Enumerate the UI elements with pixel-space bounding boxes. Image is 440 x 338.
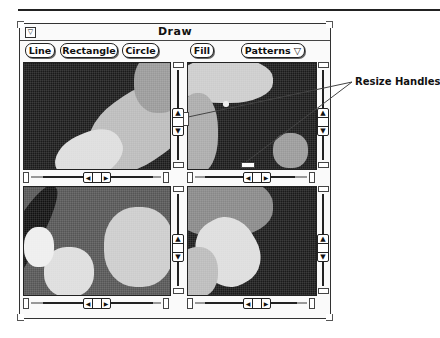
- scroll-down-arrow-icon[interactable]: ▼: [318, 252, 328, 261]
- draw-window: ▽ Draw Line Rectangle Circle Fill Patter…: [19, 23, 331, 319]
- scroll-down-arrow-icon[interactable]: ▼: [173, 126, 183, 135]
- scroll-left-arrow-icon[interactable]: ◀: [244, 173, 253, 182]
- scroll-right-anchor[interactable]: [163, 172, 169, 183]
- scroll-left-anchor[interactable]: [187, 172, 193, 183]
- line-button[interactable]: Line: [25, 43, 55, 58]
- scroll-left-arrow-icon[interactable]: ◀: [84, 173, 93, 182]
- horizontal-elevator[interactable]: ◀ ▶: [83, 298, 111, 309]
- scroll-bottom-anchor[interactable]: [173, 288, 184, 294]
- scroll-right-anchor[interactable]: [309, 172, 315, 183]
- title-bar[interactable]: ▽ Draw: [20, 24, 330, 41]
- scroll-up-arrow-icon[interactable]: ▲: [318, 235, 328, 244]
- scroll-top-anchor[interactable]: [318, 186, 329, 192]
- vertical-elevator[interactable]: ▲ ▼: [317, 108, 329, 136]
- patterns-menu-button[interactable]: Patterns ▽: [241, 43, 305, 58]
- pane-top-left-hscrollbar[interactable]: ◀ ▶: [23, 172, 169, 182]
- resize-handle-horizontal[interactable]: [241, 162, 255, 168]
- scroll-right-arrow-icon[interactable]: ▶: [101, 173, 110, 182]
- pane-top-right-canvas[interactable]: [187, 62, 317, 170]
- scroll-down-arrow-icon[interactable]: ▼: [173, 252, 183, 261]
- resize-handle-vertical[interactable]: [183, 112, 189, 126]
- window-title: Draw: [20, 25, 330, 38]
- pane-bottom-right-hscrollbar[interactable]: ◀ ▶: [187, 298, 315, 308]
- dither-texture: [24, 187, 170, 295]
- scroll-right-arrow-icon[interactable]: ▶: [101, 299, 110, 308]
- vertical-elevator[interactable]: ▲ ▼: [317, 234, 329, 262]
- scroll-up-arrow-icon[interactable]: ▲: [173, 235, 183, 244]
- pane-top-left-vscrollbar[interactable]: ▲ ▼: [173, 62, 183, 168]
- scroll-right-arrow-icon[interactable]: ▶: [261, 299, 270, 308]
- pane-bottom-left-vscrollbar[interactable]: ▲ ▼: [173, 186, 183, 294]
- horizontal-elevator[interactable]: ◀ ▶: [243, 298, 271, 309]
- dither-texture: [24, 63, 170, 169]
- vertical-elevator[interactable]: ▲ ▼: [172, 234, 184, 262]
- pane-bottom-right-canvas[interactable]: [187, 186, 317, 296]
- scroll-right-anchor[interactable]: [163, 298, 169, 309]
- pane-top-right-hscrollbar[interactable]: ◀ ▶: [187, 172, 315, 182]
- scroll-bottom-anchor[interactable]: [318, 288, 329, 294]
- window-resize-corner-br[interactable]: [326, 314, 333, 321]
- scroll-top-anchor[interactable]: [173, 62, 184, 68]
- circle-button[interactable]: Circle: [122, 43, 159, 58]
- pane-bottom-left-hscrollbar[interactable]: ◀ ▶: [23, 298, 169, 308]
- scroll-right-anchor[interactable]: [309, 298, 315, 309]
- scroll-bottom-anchor[interactable]: [318, 162, 329, 168]
- pane-bottom-left-canvas[interactable]: [23, 186, 171, 296]
- scroll-down-arrow-icon[interactable]: ▼: [318, 126, 328, 135]
- pane-top-left-canvas[interactable]: [23, 62, 171, 170]
- window-resize-corner-bl[interactable]: [17, 314, 24, 321]
- horizontal-elevator[interactable]: ◀ ▶: [243, 172, 271, 183]
- scroll-left-anchor[interactable]: [23, 172, 29, 183]
- rectangle-button[interactable]: Rectangle: [60, 43, 118, 58]
- scroll-up-arrow-icon[interactable]: ▲: [318, 109, 328, 118]
- pane-bottom-right-vscrollbar[interactable]: ▲ ▼: [318, 186, 328, 294]
- pane-top-right-vscrollbar[interactable]: ▲ ▼: [318, 62, 328, 168]
- scroll-top-anchor[interactable]: [173, 186, 184, 192]
- fill-button[interactable]: Fill: [190, 43, 214, 58]
- dither-texture: [188, 187, 316, 295]
- scroll-top-anchor[interactable]: [318, 62, 329, 68]
- scroll-bottom-anchor[interactable]: [173, 162, 184, 168]
- scroll-left-arrow-icon[interactable]: ◀: [84, 299, 93, 308]
- header-rule: [18, 9, 440, 11]
- scroll-left-anchor[interactable]: [23, 298, 29, 309]
- resize-handles-label: Resize Handles: [355, 76, 440, 87]
- scroll-left-arrow-icon[interactable]: ◀: [244, 299, 253, 308]
- scroll-right-arrow-icon[interactable]: ▶: [261, 173, 270, 182]
- dither-texture: [188, 63, 316, 169]
- scroll-left-anchor[interactable]: [187, 298, 193, 309]
- scroll-up-arrow-icon[interactable]: ▲: [173, 109, 183, 118]
- horizontal-elevator[interactable]: ◀ ▶: [83, 172, 111, 183]
